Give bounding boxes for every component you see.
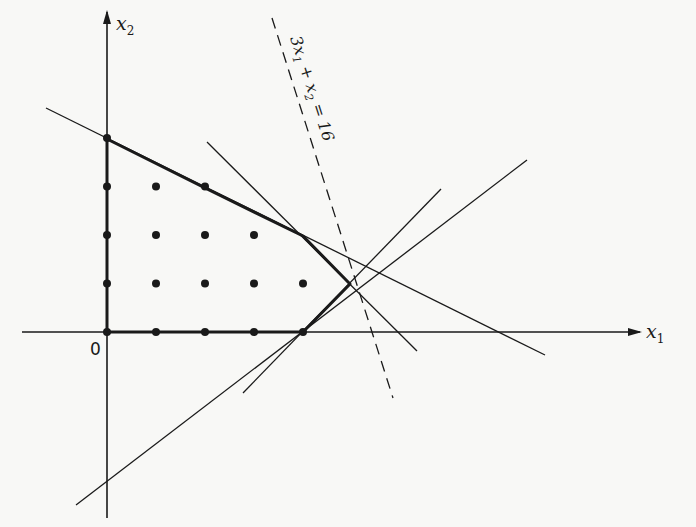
- diagram-canvas: x2 x1 0 3x1 + x2 = 16: [0, 0, 696, 527]
- origin-label: 0: [90, 339, 101, 359]
- lattice-points: [103, 134, 307, 336]
- lattice-point: [152, 280, 160, 288]
- lattice-point: [250, 280, 258, 288]
- constraint-label: 3x1 + x2 = 16: [283, 33, 338, 144]
- lattice-point: [250, 231, 258, 239]
- lattice-point: [103, 231, 111, 239]
- lattice-point: [103, 134, 111, 142]
- lattice-point: [201, 280, 209, 288]
- lattice-point: [299, 280, 307, 288]
- lattice-point: [299, 328, 307, 336]
- lattice-point: [152, 328, 160, 336]
- lattice-point: [250, 328, 258, 336]
- x-axis-label: x1: [646, 320, 664, 346]
- integer-hull-boundary: [107, 139, 350, 332]
- lattice-point: [201, 183, 209, 191]
- lattice-point: [103, 328, 111, 336]
- lattice-point: [201, 231, 209, 239]
- lattice-point: [103, 280, 111, 288]
- y-axis-label: x2: [116, 12, 134, 38]
- lattice-point: [152, 183, 160, 191]
- lattice-point: [201, 328, 209, 336]
- lattice-point: [103, 183, 111, 191]
- lattice-point: [152, 231, 160, 239]
